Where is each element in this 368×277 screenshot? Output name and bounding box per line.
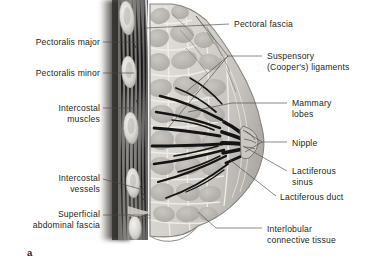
label-pectoralis-minor: Pectoralis minor bbox=[18, 68, 100, 79]
label-intercostal-muscles: Intercostal muscles bbox=[20, 103, 100, 125]
label-nipple: Nipple bbox=[292, 138, 366, 149]
panel-letter: a bbox=[27, 247, 32, 258]
label-pectoral-fascia: Pectoral fascia bbox=[234, 19, 366, 30]
label-lactiferous-sinus: Lactiferous sinus bbox=[292, 166, 366, 188]
anatomy-figure-panel: Pectoralis major Pectoralis minor Interc… bbox=[0, 0, 368, 277]
chest-wall-layers bbox=[118, 0, 150, 240]
label-interlobular-connective-tissue: Interlobular connective tissue bbox=[267, 224, 367, 246]
label-mammary-lobes: Mammary lobes bbox=[292, 98, 366, 120]
label-lactiferous-duct: Lactiferous duct bbox=[280, 192, 368, 203]
label-superficial-abdominal-fascia: Superficial abdominal fascia bbox=[10, 209, 100, 231]
label-suspensory-coopers-ligaments: Suspensory (Cooper's) ligaments bbox=[267, 51, 367, 73]
label-intercostal-vessels: Intercostal vessels bbox=[20, 173, 100, 195]
label-pectoralis-major: Pectoralis major bbox=[18, 37, 100, 48]
